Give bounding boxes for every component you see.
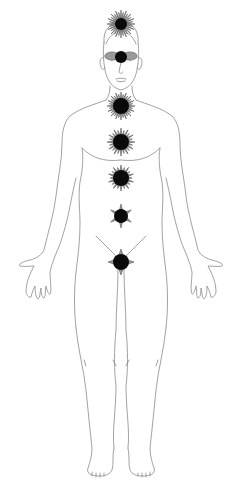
chakra-heart-icon xyxy=(107,128,135,156)
chakra-solar-plexus-icon xyxy=(109,165,134,191)
chakra-crown-icon xyxy=(107,10,135,38)
chakra-illustration xyxy=(0,0,232,498)
chakra-third-eye-icon xyxy=(105,51,137,63)
chakra-throat-icon xyxy=(107,92,135,120)
chakra-sacral-icon xyxy=(111,204,132,228)
chakra-layer xyxy=(0,0,232,498)
chakra-root-icon xyxy=(108,249,134,275)
